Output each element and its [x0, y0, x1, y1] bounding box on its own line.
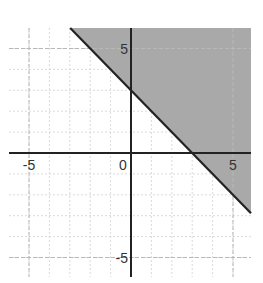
- y-tick-label: -5: [116, 250, 129, 266]
- x-tick-label: 5: [229, 157, 237, 173]
- x-tick-label: 0: [119, 157, 127, 173]
- x-tick-label: -5: [23, 157, 36, 173]
- y-tick-label: 5: [120, 41, 128, 57]
- inequality-chart: -5055-5: [0, 0, 263, 283]
